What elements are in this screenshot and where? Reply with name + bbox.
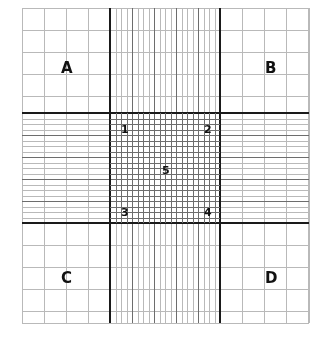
central-square-label-5: 5 xyxy=(162,165,170,176)
central-square-label-3: 3 xyxy=(121,207,129,218)
quadrant-label-d: D xyxy=(265,271,277,286)
quadrant-label-a: A xyxy=(61,61,73,76)
central-square-label-2: 2 xyxy=(204,124,212,135)
quadrant-label-c: C xyxy=(61,271,72,286)
hemocytometer-figure: ABCD12534 xyxy=(0,0,327,341)
central-square-label-1: 1 xyxy=(121,124,129,135)
quadrant-label-b: B xyxy=(265,61,276,76)
central-square-label-4: 4 xyxy=(204,207,212,218)
grid-labels-layer: ABCD12534 xyxy=(0,0,327,341)
